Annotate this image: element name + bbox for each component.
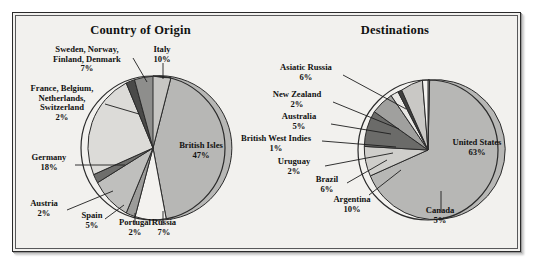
label-new-zealand-name: New Zealand <box>273 89 321 99</box>
label-united-states: United States 63% <box>445 138 509 157</box>
label-sweden-norway-finland-denmark: Sweden, Norway, Finland, Denmark 7% <box>31 45 143 74</box>
label-british-west-indies-pct: 1% <box>232 144 320 154</box>
label-uruguay: Uruguay 2% <box>267 157 321 176</box>
label-france-line1: France, Belgium, <box>31 83 94 93</box>
label-austria-name: Austria <box>30 198 58 208</box>
label-italy: Italy 10% <box>141 45 183 64</box>
label-france-line3: Switzerland <box>40 102 84 112</box>
chart-panel-destinations: Destinations <box>268 13 522 251</box>
label-canada-name: Canada <box>426 205 455 215</box>
label-argentina-name: Argentina <box>333 194 370 204</box>
label-austria: Austria 2% <box>21 199 67 218</box>
label-argentina-pct: 10% <box>325 205 379 215</box>
label-sweden-line1: Sweden, Norway, <box>55 44 118 54</box>
label-asiatic-russia-pct: 6% <box>271 73 341 83</box>
label-spain-pct: 5% <box>75 221 109 231</box>
label-france-belgium-netherlands-switzerland: France, Belgium, Netherlands, Switzerlan… <box>17 84 107 122</box>
label-british-isles: British Isles 47% <box>173 141 229 160</box>
leader-austria <box>67 191 113 210</box>
label-british-isles-pct: 47% <box>173 151 229 161</box>
label-australia-name: Australia <box>282 111 316 121</box>
label-austria-pct: 2% <box>21 209 67 219</box>
label-new-zealand-pct: 2% <box>263 100 331 110</box>
label-british-west-indies: British West Indies 1% <box>232 134 320 153</box>
label-australia-pct: 5% <box>271 122 327 132</box>
label-sweden-pct: 7% <box>31 64 143 74</box>
label-germany-name: Germany <box>32 152 67 162</box>
label-united-states-pct: 63% <box>445 148 509 158</box>
label-asiatic-russia-name: Asiatic Russia <box>280 62 332 72</box>
label-brazil-name: Brazil <box>316 174 338 184</box>
label-france-line2: Netherlands, <box>38 93 85 103</box>
label-uruguay-name: Uruguay <box>278 156 310 166</box>
label-spain: Spain 5% <box>75 211 109 230</box>
label-sweden-line2: Finland, Denmark <box>53 54 121 64</box>
label-australia: Australia 5% <box>271 112 327 131</box>
label-spain-name: Spain <box>81 210 102 220</box>
label-canada: Canada 5% <box>417 206 463 225</box>
label-british-west-indies-name: British West Indies <box>241 133 311 143</box>
label-new-zealand: New Zealand 2% <box>263 90 331 109</box>
label-russia-name: Russia <box>152 217 176 227</box>
label-russia: Russia 7% <box>145 218 183 237</box>
label-italy-pct: 10% <box>141 55 183 65</box>
label-germany: Germany 18% <box>23 153 75 172</box>
label-brazil: Brazil 6% <box>307 175 347 194</box>
label-france-pct: 2% <box>17 113 107 123</box>
label-united-states-name: United States <box>453 137 502 147</box>
label-germany-pct: 18% <box>23 163 75 173</box>
label-asiatic-russia: Asiatic Russia 6% <box>271 63 341 82</box>
label-canada-pct: 5% <box>417 216 463 226</box>
label-british-isles-name: British Isles <box>179 140 223 150</box>
label-russia-pct: 7% <box>145 228 183 238</box>
label-brazil-pct: 6% <box>307 185 347 195</box>
label-argentina: Argentina 10% <box>325 195 379 214</box>
label-italy-name: Italy <box>153 44 170 54</box>
figure-frame: Country of Origin <box>12 12 521 252</box>
chart-title-destinations: Destinations <box>268 23 522 38</box>
